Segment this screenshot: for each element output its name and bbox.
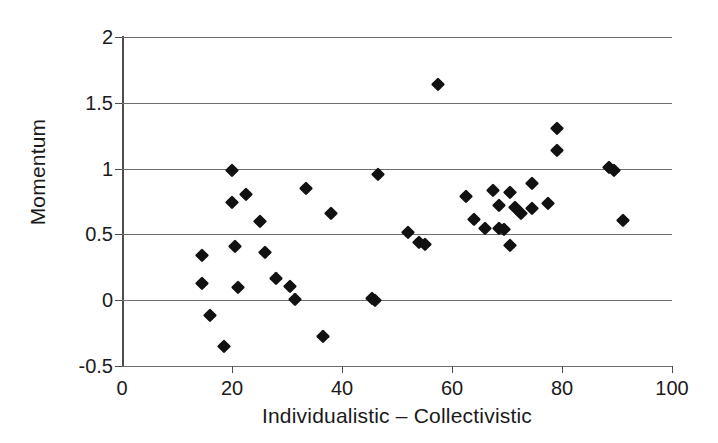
data-point-marker (225, 195, 238, 208)
scatter-chart-figure: Momentum -0.500.511.52 020406080100 Indi… (0, 0, 718, 443)
data-point-marker (503, 238, 516, 251)
x-tick (562, 366, 563, 373)
data-point-marker (542, 196, 555, 209)
data-point-marker (289, 292, 302, 305)
data-point-marker (478, 221, 491, 234)
gridline (122, 103, 672, 104)
x-tick (342, 366, 343, 373)
y-tick (115, 234, 122, 235)
data-point-marker (503, 186, 516, 199)
data-point-marker (316, 329, 329, 342)
y-tick (115, 169, 122, 170)
gridline (122, 366, 672, 367)
data-point-marker (195, 249, 208, 262)
y-tick (115, 37, 122, 38)
data-point-marker (616, 213, 629, 226)
y-tick-label: -0.5 (79, 355, 113, 378)
data-point-marker (459, 190, 472, 203)
gridline (122, 37, 672, 38)
x-tick-label: 40 (331, 377, 353, 400)
y-tick (115, 103, 122, 104)
data-point-marker (550, 143, 563, 156)
y-tick-label: 1 (102, 157, 113, 180)
y-tick-label: 0.5 (85, 223, 113, 246)
data-point-marker (432, 78, 445, 91)
data-point-marker (225, 163, 238, 176)
data-point-marker (217, 340, 230, 353)
y-tick-label: 1.5 (85, 91, 113, 114)
x-tick (672, 366, 673, 373)
x-tick (232, 366, 233, 373)
y-axis-title: Momentum (26, 62, 50, 282)
data-point-marker (231, 280, 244, 293)
gridline (122, 169, 672, 170)
x-tick-label: 60 (441, 377, 463, 400)
data-point-marker (487, 183, 500, 196)
data-point-marker (195, 276, 208, 289)
x-tick-label: 0 (116, 377, 127, 400)
y-tick-label: 0 (102, 289, 113, 312)
data-point-marker (300, 182, 313, 195)
data-point-marker (228, 240, 241, 253)
data-point-marker (324, 207, 337, 220)
data-point-marker (467, 212, 480, 225)
data-point-marker (253, 215, 266, 228)
x-tick-label: 100 (655, 377, 688, 400)
data-point-marker (401, 225, 414, 238)
data-point-marker (283, 279, 296, 292)
data-point-marker (492, 199, 505, 212)
y-tick (115, 300, 122, 301)
data-point-marker (239, 187, 252, 200)
x-tick-label: 80 (551, 377, 573, 400)
y-tick-label: 2 (102, 26, 113, 49)
y-tick (115, 366, 122, 367)
plot-area: -0.500.511.52 020406080100 (122, 37, 672, 366)
data-point-marker (525, 176, 538, 189)
x-axis-title: Individualistic – Collectivistic (122, 404, 672, 428)
data-point-marker (203, 308, 216, 321)
x-tick-label: 20 (221, 377, 243, 400)
x-tick (452, 366, 453, 373)
data-point-marker (269, 271, 282, 284)
gridline (122, 300, 672, 301)
gridline (122, 234, 672, 235)
data-point-marker (258, 245, 271, 258)
data-point-marker (550, 121, 563, 134)
